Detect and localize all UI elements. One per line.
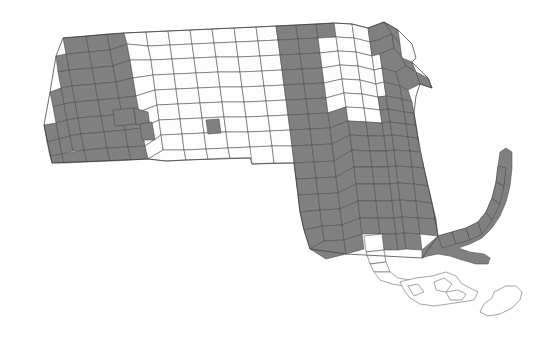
region-central-ma-unshaded[interactable] <box>124 26 294 164</box>
massachusetts-map-svg[interactable] <box>0 0 538 343</box>
map-screenshot: Massachusetts Municipalities Shaded muni… <box>0 0 538 343</box>
region-islands-unshaded[interactable] <box>374 272 522 316</box>
massachusetts-map-figure <box>0 0 538 343</box>
region-cape-cod-shaded[interactable] <box>422 148 512 264</box>
region-boston-metro[interactable] <box>316 22 432 161</box>
